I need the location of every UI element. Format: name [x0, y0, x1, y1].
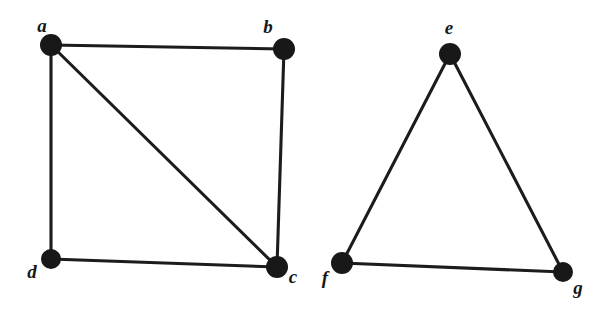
vertex-node-f: [331, 252, 353, 274]
vertex-label-f: f: [322, 267, 330, 288]
edge-d-c: [51, 259, 277, 267]
edge-f-g: [342, 263, 563, 272]
vertex-label-b: b: [263, 16, 273, 37]
vertex-label-c: c: [289, 266, 298, 287]
nodes-layer: [40, 34, 573, 282]
vertex-label-e: e: [445, 17, 454, 38]
vertex-node-c: [266, 256, 288, 278]
vertex-label-g: g: [572, 277, 583, 298]
vertex-node-e: [439, 43, 461, 65]
edge-a-c: [51, 45, 277, 267]
vertex-node-d: [41, 249, 61, 269]
vertex-node-a: [40, 34, 62, 56]
diagram-canvas: abcdefg: [0, 0, 608, 312]
vertex-label-a: a: [37, 15, 47, 36]
vertex-node-b: [273, 38, 295, 60]
vertex-node-g: [553, 262, 573, 282]
edge-e-g: [450, 54, 563, 272]
edge-e-f: [342, 54, 450, 263]
graph-diagram: abcdefg: [0, 0, 608, 312]
edge-a-b: [51, 45, 284, 49]
labels-layer: abcdefg: [27, 15, 583, 298]
edges-layer: [51, 45, 563, 272]
edge-b-c: [277, 49, 284, 267]
vertex-label-d: d: [27, 261, 37, 282]
